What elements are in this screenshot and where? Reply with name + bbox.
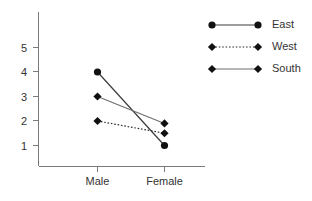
y-tick-label: 1 [21,140,27,152]
legend-marker-diamond-icon [254,43,262,51]
data-point-west-female [160,129,168,137]
y-tick-label: 4 [21,66,27,78]
legend-label: South [272,62,301,74]
x-axis-labels: Male Female [86,175,183,187]
data-point-south-female [160,119,168,127]
chart-legend: EastWestSouth [208,18,301,74]
axes [39,12,206,167]
y-axis-labels: 5 4 3 2 1 [21,42,27,152]
series-line-east [98,72,165,146]
legend-item-east[interactable]: East [208,18,294,30]
series-east [94,68,168,149]
legend-marker-diamond-icon [208,43,216,51]
data-point-east-female [161,142,168,149]
x-tick-label-male: Male [86,175,110,187]
data-point-east-male [94,68,101,75]
y-tick-label: 2 [21,115,27,127]
y-tick-label: 3 [21,91,27,103]
y-tick-label: 5 [21,42,27,54]
series-line-west [98,121,165,133]
series-line-south [98,97,165,124]
data-point-west-male [93,117,101,125]
x-tick-label-female: Female [146,175,183,187]
data-point-south-male [93,92,101,100]
legend-marker-diamond-icon [254,65,262,73]
series-layer [93,68,168,149]
legend-label: West [272,40,297,52]
legend-marker-circle-icon [254,21,261,28]
legend-marker-diamond-icon [208,65,216,73]
legend-item-south[interactable]: South [208,62,301,74]
x-axis-ticks [98,167,165,173]
chart-canvas: 5 4 3 2 1 Male Female EastWestSouth [0,0,312,201]
line-chart: 5 4 3 2 1 Male Female EastWestSouth [0,0,312,201]
legend-label: East [272,18,294,30]
y-axis-ticks [33,48,39,146]
legend-marker-circle-icon [208,21,215,28]
legend-item-west[interactable]: West [208,40,297,52]
